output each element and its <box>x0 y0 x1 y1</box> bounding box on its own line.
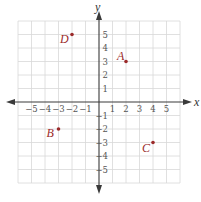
x-tick-label: 3 <box>137 104 142 114</box>
x-tick-label: 2 <box>123 104 128 114</box>
x-tick-label: −2 <box>66 104 79 114</box>
y-tick-label: −1 <box>95 111 108 121</box>
x-tick-label: 5 <box>164 104 169 114</box>
x-tick-label: −3 <box>52 104 65 114</box>
y-tick-label: 2 <box>103 70 108 80</box>
y-tick-label: −2 <box>95 124 108 134</box>
x-tick-label: 1 <box>110 104 115 114</box>
y-tick-label: −4 <box>95 151 108 161</box>
x-axis-right-arrow-icon <box>183 99 192 105</box>
x-tick-label: −4 <box>39 104 52 114</box>
point-label-a: A <box>116 49 125 63</box>
y-tick-label: 1 <box>103 84 108 94</box>
y-tick-label: 5 <box>103 30 108 40</box>
y-tick-label: −3 <box>95 138 108 148</box>
point-label-d: D <box>59 32 69 46</box>
point-label-c: C <box>142 141 151 155</box>
x-tick-label: −5 <box>25 104 38 114</box>
x-tick-label: −1 <box>79 104 92 114</box>
coordinate-plane: x y −5−4−3−2−112345 −5−4−3−2−112345 ABCD <box>0 0 201 202</box>
y-tick-label: 3 <box>103 57 108 67</box>
y-axis-label: y <box>94 0 101 14</box>
x-axis-left-arrow-icon <box>6 99 15 105</box>
x-axis-label: x <box>193 95 200 109</box>
y-tick-label: −5 <box>95 165 108 175</box>
y-axis-down-arrow-icon <box>96 185 102 194</box>
point-label-b: B <box>47 126 55 140</box>
point-c <box>151 141 155 145</box>
point-d <box>70 33 74 37</box>
data-points: ABCD <box>47 32 155 155</box>
x-tick-label: 4 <box>150 104 155 114</box>
point-a <box>124 60 128 64</box>
y-tick-label: 4 <box>103 43 108 53</box>
point-b <box>57 127 61 131</box>
